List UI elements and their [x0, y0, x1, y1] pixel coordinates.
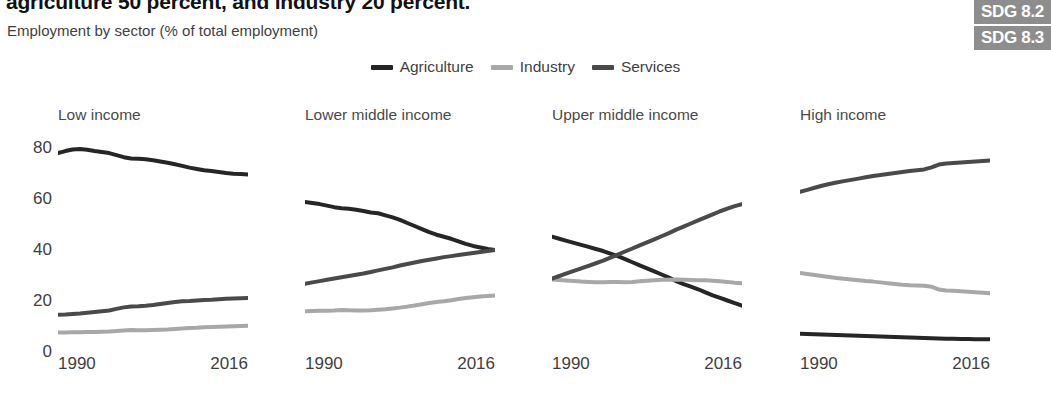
chart-panel-lower-middle-income: Lower middle income19902016	[305, 96, 495, 406]
series-line-agriculture	[58, 149, 248, 174]
legend-item-services: Services	[592, 58, 680, 76]
chart-panels: 806040200 Low income19902016Lower middle…	[0, 96, 1051, 406]
y-axis-tick: 80	[33, 138, 52, 158]
y-axis-tick: 60	[33, 189, 52, 209]
page-headline: agriculture 50 percent, and industry 20 …	[6, 0, 906, 14]
legend-label: Agriculture	[400, 58, 474, 76]
series-line-agriculture	[800, 334, 990, 340]
x-axis-end-label: 2016	[457, 354, 495, 374]
legend-swatch-icon	[371, 65, 393, 70]
series-line-agriculture	[552, 237, 742, 306]
y-axis-tick: 20	[33, 291, 52, 311]
sdg-badge: SDG 8.2	[974, 0, 1051, 24]
x-axis-end-label: 2016	[952, 354, 990, 374]
series-line-services	[305, 250, 495, 284]
chart-subtitle: Employment by sector (% of total employm…	[7, 22, 318, 39]
x-axis-start-label: 1990	[552, 354, 590, 374]
legend-item-agriculture: Agriculture	[371, 58, 474, 76]
sdg-badge: SDG 8.3	[974, 26, 1051, 50]
x-axis-end-label: 2016	[704, 354, 742, 374]
series-line-services	[800, 161, 990, 192]
legend-item-industry: Industry	[491, 58, 575, 76]
y-axis-tick: 40	[33, 240, 52, 260]
series-line-services	[58, 298, 248, 315]
legend-label: Industry	[520, 58, 575, 76]
chart-panel-upper-middle-income: Upper middle income19902016	[552, 96, 742, 406]
legend-label: Services	[621, 58, 680, 76]
legend-swatch-icon	[592, 65, 614, 70]
x-axis-start-label: 1990	[305, 354, 343, 374]
series-line-agriculture	[305, 202, 495, 250]
chart-legend: AgricultureIndustryServices	[0, 58, 1051, 76]
chart-panel-low-income: Low income19902016	[58, 96, 248, 406]
legend-swatch-icon	[491, 65, 513, 70]
series-line-industry	[552, 280, 742, 284]
sdg-badge-group: SDG 8.2SDG 8.3	[974, 0, 1051, 50]
x-axis-end-label: 2016	[210, 354, 248, 374]
series-line-industry	[305, 295, 495, 311]
series-line-industry	[800, 273, 990, 293]
y-axis: 806040200	[0, 96, 60, 406]
y-axis-tick: 0	[43, 342, 52, 362]
x-axis-start-label: 1990	[800, 354, 838, 374]
x-axis-start-label: 1990	[58, 354, 96, 374]
series-line-industry	[58, 326, 248, 333]
chart-panel-high-income: High income19902016	[800, 96, 990, 406]
